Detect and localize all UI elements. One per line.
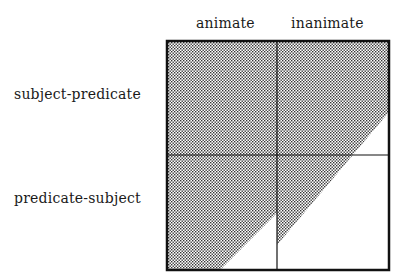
matrix-diagram [0, 0, 401, 279]
